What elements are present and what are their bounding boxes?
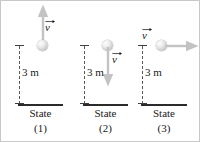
physics-diagram: v 3 m State (1) xyxy=(0,0,200,142)
state-number-3: (3) xyxy=(141,123,187,134)
state-panel-3: v 3 m State (3) xyxy=(1,1,200,142)
state-label-3: State xyxy=(141,108,187,119)
vector-arrow-accent-icon xyxy=(142,27,152,31)
distance-label-3: 3 m xyxy=(145,67,162,78)
velocity-label-3: v xyxy=(142,30,147,41)
velocity-arrow-right-icon xyxy=(165,40,199,52)
height-dashed-line-3 xyxy=(142,46,143,104)
ground-line-3 xyxy=(141,104,187,106)
